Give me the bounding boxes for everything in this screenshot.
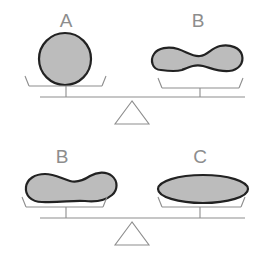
balance-figure: A B <box>0 0 264 262</box>
scale-bottom: B C <box>22 146 248 245</box>
object-b-blob-bottom <box>26 173 117 203</box>
label-top-left: A <box>60 10 73 31</box>
label-bottom-right: C <box>193 146 207 167</box>
beam-bottom <box>40 207 245 218</box>
label-bottom-left: B <box>56 146 69 167</box>
scale-top: A B <box>25 10 245 124</box>
object-a-circle <box>39 33 91 85</box>
object-b-blob-top <box>152 45 242 71</box>
fulcrum-top <box>115 101 149 124</box>
label-top-right: B <box>192 10 205 31</box>
fulcrum-bottom <box>115 222 149 245</box>
object-c-ellipse <box>158 175 248 203</box>
pan-top-right <box>158 78 243 88</box>
balance-diagram-svg: A B <box>0 0 264 262</box>
